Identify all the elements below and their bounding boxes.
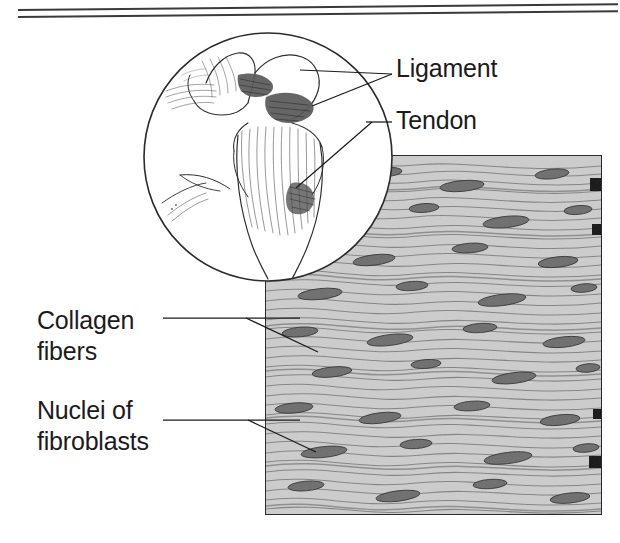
label-nuclei-of-fibroblasts: Nuclei of fibroblasts [37, 395, 149, 457]
label-tendon: Tendon [396, 105, 477, 136]
label-collagen-fibers: Collagen fibers [37, 305, 134, 367]
header-rule-lower [18, 10, 618, 18]
joint-inset-svg [142, 31, 394, 283]
figure-root: Ligament Tendon Collagen fibers Nuclei o… [0, 0, 620, 543]
label-ligament: Ligament [396, 53, 497, 84]
header-rule-upper [18, 3, 618, 10]
joint-circle-inset [142, 31, 394, 283]
